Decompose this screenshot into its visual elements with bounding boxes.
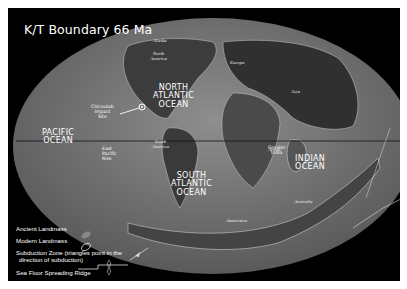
label-chicxulub: Chicxulub Impact Site [91, 105, 114, 119]
label-south-atlantic: SOUTH ATLANTIC OCEAN [171, 172, 212, 197]
legend-subduction-zone-line2: direction of subduction) [19, 256, 83, 263]
label-alaska: Alaska [153, 38, 167, 43]
legend-ancient-landmass: Ancient Landmass [16, 225, 67, 232]
legend-modern-landmass: Modern Landmass [16, 237, 67, 244]
label-pacific: PACIFIC OCEAN [42, 129, 74, 146]
label-line: Site [91, 115, 114, 120]
label-australia: Australia [294, 199, 313, 204]
label-line: OCEAN [295, 163, 325, 171]
label-line: OCEAN [171, 189, 212, 197]
ridge-arrow-up-icon [107, 260, 111, 267]
label-greater-india: Greater India [268, 146, 286, 156]
label-line: OCEAN [42, 137, 74, 145]
label-east-pacific-rise: East Pacific Rise [102, 147, 117, 161]
map-title: K/T Boundary 66 Ma [24, 22, 152, 37]
map-frame: K/T Boundary 66 Ma NORTH ATLANTIC OCEAN … [8, 8, 400, 281]
ridge-arrow-down-icon [107, 268, 111, 275]
label-line: OCEAN [153, 101, 194, 109]
label-north-atlantic: NORTH ATLANTIC OCEAN [153, 84, 194, 109]
label-indian: INDIAN OCEAN [295, 155, 325, 172]
label-line: America [152, 144, 169, 149]
label-asia: Asia [291, 89, 300, 94]
label-north-america: North America [150, 51, 167, 62]
label-line: America [150, 56, 167, 61]
legend-subduction-zone: Subduction Zone (triangles point in the [16, 249, 122, 256]
label-south-america: South America [152, 139, 169, 150]
label-europe: Europe [230, 60, 245, 65]
label-line: India [268, 151, 286, 156]
legend-spreading-ridge: Sea Floor Spreading Ridge [16, 269, 91, 276]
label-antarctica: Antarctica [226, 218, 247, 223]
label-line: Rise [102, 157, 117, 162]
